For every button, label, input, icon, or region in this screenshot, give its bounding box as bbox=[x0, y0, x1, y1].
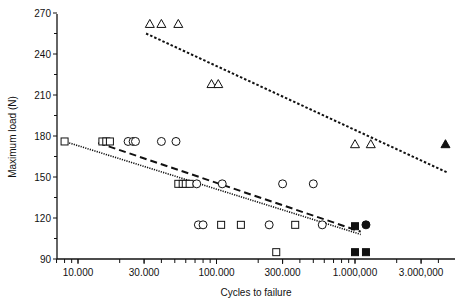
fatigue-scatter-chart: 9012015018021024027010.00030.000100.0003… bbox=[0, 0, 464, 305]
square-filled-marker bbox=[352, 223, 359, 230]
circle-trend bbox=[98, 143, 360, 232]
x-tick-label: 1.000,000 bbox=[333, 267, 378, 278]
x-tick-label: 100.000 bbox=[198, 267, 235, 278]
y-tick-label: 90 bbox=[40, 254, 52, 265]
y-tick-label: 120 bbox=[34, 213, 51, 224]
circle-open-marker bbox=[265, 221, 273, 229]
x-axis-label: Cycles to failure bbox=[220, 287, 292, 298]
circle-open-marker bbox=[131, 137, 139, 145]
x-tick-label: 10.000 bbox=[63, 267, 94, 278]
triangle-open-marker bbox=[145, 19, 154, 27]
y-tick-label: 180 bbox=[34, 131, 51, 142]
triangle-trend bbox=[146, 34, 448, 173]
square-open-marker bbox=[237, 221, 244, 228]
circle-open-marker bbox=[157, 137, 165, 145]
circle-open-marker bbox=[193, 180, 201, 188]
y-axis-label: Maximum load (N) bbox=[7, 96, 18, 178]
circle-open-marker bbox=[172, 137, 180, 145]
y-tick-label: 270 bbox=[34, 8, 51, 19]
trend-lines bbox=[65, 34, 449, 235]
x-tick-label: 30.000 bbox=[129, 267, 160, 278]
square-trend bbox=[65, 141, 361, 234]
circle-open-marker bbox=[318, 221, 326, 229]
square-open-marker bbox=[186, 180, 193, 187]
triangle-filled-marker bbox=[441, 140, 450, 148]
circle-filled-marker bbox=[362, 221, 370, 229]
square-open-marker bbox=[61, 138, 68, 145]
square-open-marker bbox=[106, 138, 113, 145]
square-filled-marker bbox=[362, 249, 369, 256]
square-open-marker bbox=[218, 221, 225, 228]
y-tick-label: 210 bbox=[34, 90, 51, 101]
x-tick-label: 300.000 bbox=[265, 267, 302, 278]
triangle-open-marker bbox=[366, 140, 375, 148]
square-filled-marker bbox=[352, 249, 359, 256]
y-tick-label: 150 bbox=[34, 172, 51, 183]
circle-open-marker bbox=[199, 221, 207, 229]
circle-open-marker bbox=[218, 180, 226, 188]
y-tick-label: 240 bbox=[34, 49, 51, 60]
data-points bbox=[61, 19, 450, 255]
triangle-open-marker bbox=[157, 19, 166, 27]
triangle-open-marker bbox=[214, 80, 223, 88]
square-open-marker bbox=[292, 221, 299, 228]
square-open-marker bbox=[273, 249, 280, 256]
circle-open-marker bbox=[279, 180, 287, 188]
triangle-open-marker bbox=[174, 19, 183, 27]
x-tick-label: 3.000,000 bbox=[399, 267, 444, 278]
axes: 9012015018021024027010.00030.000100.0003… bbox=[34, 8, 455, 278]
triangle-open-marker bbox=[351, 140, 360, 148]
circle-open-marker bbox=[309, 180, 317, 188]
